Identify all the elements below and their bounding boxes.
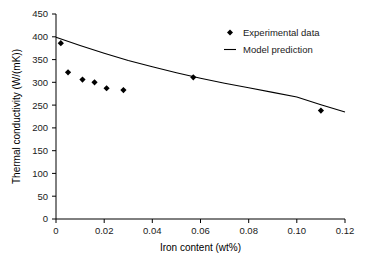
y-axis: 0 50 100 150 200 250 300 350 400 450: [32, 8, 56, 224]
x-tick-label: 0.08: [239, 225, 258, 236]
x-axis: 0 0.02 0.04 0.06 0.08 0.10 0.12: [53, 219, 354, 236]
chart-svg: 0 50 100 150 200 250 300 350 400 450 0: [0, 0, 371, 269]
x-tick-label: 0: [53, 225, 58, 236]
y-tick-label: 200: [32, 122, 48, 133]
y-tick-label: 350: [32, 54, 48, 65]
x-tick-label: 0.10: [288, 225, 307, 236]
legend-label-model: Model prediction: [243, 44, 313, 55]
x-tick-label: 0.04: [143, 225, 162, 236]
data-point-marker: [58, 40, 64, 46]
y-axis-title: Thermal conductivity (W/(mK)): [11, 49, 22, 184]
x-axis-ticks: [56, 219, 345, 223]
y-tick-label: 300: [32, 77, 48, 88]
y-tick-label: 400: [32, 31, 48, 42]
y-axis-ticks: [52, 14, 56, 219]
data-point-marker: [103, 85, 109, 91]
legend-entry-experimental: Experimental data: [227, 27, 320, 38]
chart-figure: 0 50 100 150 200 250 300 350 400 450 0: [0, 0, 371, 269]
data-point-marker: [91, 79, 97, 85]
legend-entry-model: Model prediction: [224, 44, 313, 55]
data-point-marker: [318, 107, 324, 113]
legend: Experimental data Model prediction: [224, 27, 320, 55]
x-tick-label: 0.02: [95, 225, 114, 236]
y-tick-label: 150: [32, 145, 48, 156]
legend-label-experimental: Experimental data: [243, 27, 320, 38]
x-tick-label: 0.12: [336, 225, 355, 236]
y-tick-label: 450: [32, 8, 48, 19]
x-tick-label: 0.06: [191, 225, 210, 236]
y-tick-label: 0: [43, 213, 48, 224]
y-tick-label: 100: [32, 168, 48, 179]
y-tick-label: 50: [37, 191, 48, 202]
data-point-marker: [79, 77, 85, 83]
y-tick-label: 250: [32, 100, 48, 111]
x-axis-title: Iron content (wt%): [160, 242, 241, 253]
data-point-marker: [65, 69, 71, 75]
diamond-marker-icon: [227, 30, 233, 36]
data-point-marker: [120, 87, 126, 93]
